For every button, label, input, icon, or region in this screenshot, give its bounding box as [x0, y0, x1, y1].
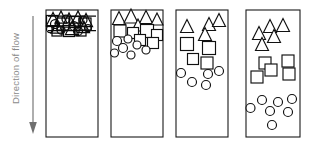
panel-4	[246, 10, 300, 137]
panel-1	[46, 10, 98, 137]
flow-direction-label: Direction of flow	[10, 17, 21, 121]
panels-canvas	[0, 0, 309, 148]
panel-2	[111, 9, 164, 137]
panel-1-shapes	[47, 11, 97, 37]
panel-3-shapes	[177, 14, 226, 90]
flow-axis-group: Direction of flow	[0, 0, 44, 148]
down-arrow-icon	[26, 14, 40, 136]
panel-3	[176, 10, 228, 137]
panel-2-shapes	[111, 9, 164, 59]
panel-4-shapes	[246, 19, 297, 130]
stratification-figure: Direction of flow	[0, 0, 309, 148]
